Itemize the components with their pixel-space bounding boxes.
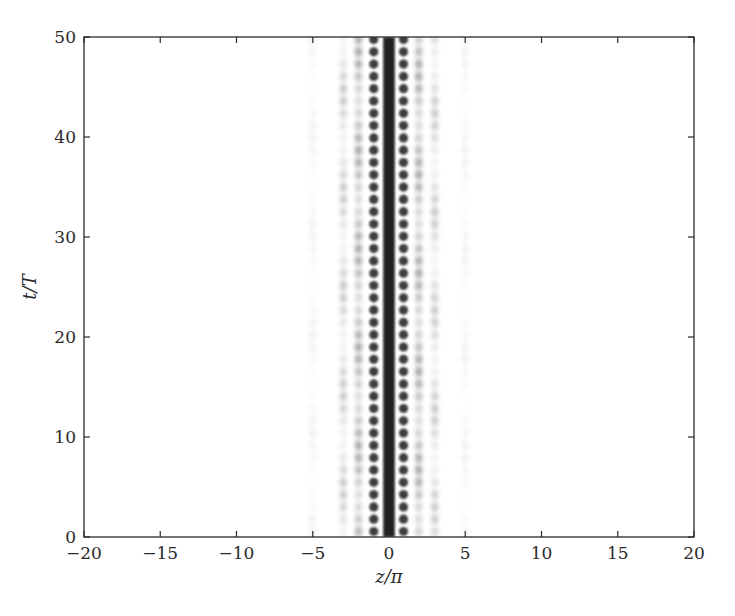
y-tick-label: 10 [54,427,76,447]
y-tick-label: 40 [54,127,76,147]
intensity-pattern [309,34,469,537]
x-tick-label: 5 [460,543,471,563]
x-tick-label: −10 [219,543,255,563]
x-tick-label: −5 [300,543,325,563]
y-axis-label: t/T [19,272,40,299]
y-tick-label: 0 [65,527,76,547]
y-tick-labels: 01020304050 [54,27,76,547]
x-tick-labels: −20−15−10−505101520 [66,543,705,563]
x-tick-label: 15 [607,543,629,563]
x-tick-label: 20 [683,543,705,563]
x-tick-label: −15 [142,543,178,563]
heatmap-chart: −20−15−10−505101520 01020304050 z/π t/T [0,0,735,616]
x-tick-label: 0 [384,543,395,563]
y-tick-label: 30 [54,227,76,247]
x-tick-label: 10 [531,543,553,563]
x-axis-label: z/π [374,566,404,587]
y-tick-label: 20 [54,327,76,347]
y-tick-label: 50 [54,27,76,47]
